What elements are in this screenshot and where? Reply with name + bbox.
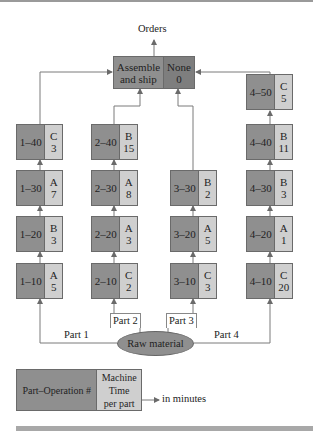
part-2-label: Part 2 (110, 313, 141, 328)
part-1-label: Part 1 (64, 329, 89, 340)
operation-box-4-10: 4–10 C20 (246, 263, 293, 299)
operation-box-2-30: 2–30 A8 (91, 170, 138, 206)
operation-box-4-20: 4–20 A1 (246, 216, 293, 252)
operation-box-1-40: 1–40 C3 (16, 124, 63, 160)
operation-box-3-20: 3–20 A5 (170, 216, 217, 252)
operation-box-1-10: 1–10 A5 (16, 263, 63, 299)
operation-box-4-50: 4–50 C5 (246, 74, 293, 110)
legend-units-note: in minutes (162, 393, 206, 404)
operation-box-3-10: 3–10 C3 (170, 263, 217, 299)
operation-box-4-40: 4–40 B11 (246, 124, 293, 160)
operation-box-3-30: 3–30 B2 (170, 170, 217, 206)
operation-box-2-20: 2–20 A3 (91, 216, 138, 252)
assemble-ship-label: Assemble and ship (114, 57, 164, 88)
legend-box: Part–Operation # Machine Time per part (16, 369, 142, 411)
assemble-machine-time: None 0 (164, 57, 194, 88)
bottom-rule (16, 426, 313, 431)
operation-box-1-30: 1–30 A7 (16, 170, 63, 206)
legend-part-operation: Part–Operation # (17, 370, 97, 410)
operation-box-1-20: 1–20 B3 (16, 216, 63, 252)
legend-machine-time: Machine Time per part (97, 370, 141, 410)
operation-box-2-40: 2–40 B15 (91, 124, 138, 160)
operation-box-2-10: 2–10 C2 (91, 263, 138, 299)
raw-material-node: Raw material (117, 331, 194, 356)
part-3-label: Part 3 (166, 313, 197, 328)
operation-box-4-30: 4–30 B3 (246, 170, 293, 206)
orders-label: Orders (138, 23, 167, 34)
assemble-ship-box: Assemble and ship None 0 (113, 56, 195, 89)
part-4-label: Part 4 (214, 329, 239, 340)
